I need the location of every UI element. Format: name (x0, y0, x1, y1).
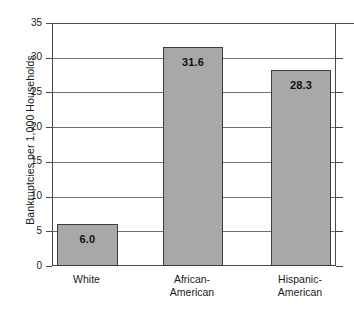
bar (271, 70, 331, 267)
x-category-line: Hispanic- (248, 273, 352, 286)
plot-area: 6.031.628.3 (52, 23, 336, 266)
y-tick-label-30: 30 (16, 51, 42, 62)
y-tick-right-10 (336, 197, 343, 198)
y-tick-right-15 (336, 162, 343, 163)
gridline-35 (53, 23, 335, 24)
y-tick-label-0: 0 (16, 260, 42, 271)
x-category-label: African-American (140, 273, 244, 298)
x-category-line: American (140, 286, 244, 299)
y-tick-label-5: 5 (16, 225, 42, 236)
y-tick-right-5 (336, 231, 343, 232)
y-tick-label-15: 15 (16, 155, 42, 166)
bar (163, 47, 223, 266)
y-tick-right-25 (336, 92, 343, 93)
bar-chart: Bankruptcies per 1,000 Households 051015… (0, 0, 354, 315)
bar-value-label: 6.0 (57, 233, 118, 245)
x-category-label: White (34, 273, 139, 286)
y-tick-right-0 (336, 266, 343, 267)
y-tick-label-25: 25 (16, 86, 42, 97)
y-tick-right-30 (336, 58, 343, 59)
x-category-line: White (34, 273, 139, 286)
y-tick-label-20: 20 (16, 121, 42, 132)
bar-value-label: 31.6 (163, 56, 223, 68)
x-category-line: African- (140, 273, 244, 286)
x-category-label: Hispanic-American (248, 273, 352, 298)
x-category-line: American (248, 286, 352, 299)
y-tick-right-20 (336, 127, 343, 128)
top-axis-overshoot (336, 23, 354, 24)
bar-value-label: 28.3 (271, 79, 331, 91)
y-tick-0 (46, 266, 52, 267)
y-tick-label-35: 35 (16, 17, 42, 28)
y-tick-label-10: 10 (16, 190, 42, 201)
